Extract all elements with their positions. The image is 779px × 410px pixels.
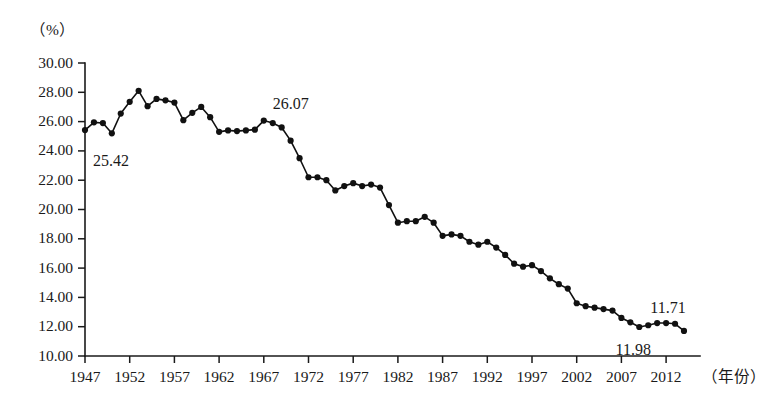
y-axis-tick-label: 28.00 xyxy=(38,83,73,100)
data-point: 1966: 25.45 xyxy=(252,127,258,133)
data-point: 1959: 26.6 xyxy=(189,110,195,116)
data-point: 1970: 24.7 xyxy=(288,138,294,144)
data-point: 1949: 25.9 xyxy=(100,120,106,126)
data-point: 1999: 15.3 xyxy=(547,275,553,281)
data-point: 1984: 19.2 xyxy=(413,218,419,224)
data-point: 1973: 22.2 xyxy=(314,174,320,180)
data-point: 1989: 18.2 xyxy=(457,233,463,239)
data-point: 1967: 26.07 xyxy=(261,117,267,123)
data-annotation: 11.98 xyxy=(616,341,651,358)
line-chart: （%）30.0028.0026.0024.0022.0020.0018.0016… xyxy=(0,0,779,410)
data-point: 1961: 26.3 xyxy=(207,114,213,120)
data-point: 1953: 28.1 xyxy=(136,88,142,94)
y-axis-tick-label: 10.00 xyxy=(38,347,73,364)
y-axis-tick-label: 26.00 xyxy=(38,112,73,129)
data-point: 2000: 14.9 xyxy=(556,281,562,287)
data-point: 1958: 26.1 xyxy=(180,117,186,123)
x-axis-tick-label: 1997 xyxy=(517,368,548,385)
data-point: 1956: 27.45 xyxy=(162,97,168,103)
data-point: 1997: 16.2 xyxy=(529,262,535,268)
data-point: 1963: 25.4 xyxy=(225,127,231,133)
x-axis-name: （年份） xyxy=(702,368,766,385)
data-point: 2005: 13.2 xyxy=(600,306,606,312)
data-annotation: 25.42 xyxy=(93,152,129,169)
x-axis-tick-label: 1972 xyxy=(293,368,324,385)
data-point: 1960: 27 xyxy=(198,104,204,110)
x-axis-tick-label: 2007 xyxy=(606,368,637,385)
x-axis-tick-label: 2012 xyxy=(651,368,682,385)
data-point: 1947: 25.42 xyxy=(82,127,88,133)
x-axis-tick-label: 1952 xyxy=(114,368,145,385)
data-point: 2001: 14.6 xyxy=(565,286,571,292)
y-axis-tick-label: 20.00 xyxy=(38,200,73,217)
data-point: 1952: 27.35 xyxy=(127,99,133,105)
data-point: 2006: 13.1 xyxy=(609,307,615,313)
data-annotation: 26.07 xyxy=(273,95,309,112)
data-point: 2003: 13.4 xyxy=(583,303,589,309)
data-point: 1980: 21.5 xyxy=(377,184,383,190)
x-axis-tick-label: 2002 xyxy=(561,368,592,385)
data-point: 2002: 13.6 xyxy=(574,300,580,306)
data-annotation: 11.71 xyxy=(650,299,685,316)
x-axis-tick-label: 1987 xyxy=(427,368,458,385)
series-line-比重 xyxy=(85,91,684,331)
data-point: 2004: 13.3 xyxy=(591,305,597,311)
data-point: 1975: 21.3 xyxy=(332,187,338,193)
y-axis-tick-label: 30.00 xyxy=(38,54,73,71)
x-axis-tick-label: 1982 xyxy=(382,368,413,385)
data-point: 2012: 12.25 xyxy=(663,320,669,326)
y-axis-tick-label: 24.00 xyxy=(38,141,73,158)
data-point: 1965: 25.4 xyxy=(243,127,249,133)
data-point: 1964: 25.35 xyxy=(234,128,240,134)
data-point: 1988: 18.3 xyxy=(448,231,454,237)
data-point: 2008: 12.3 xyxy=(627,319,633,325)
data-point: 1948: 25.95 xyxy=(91,119,97,125)
y-axis-tick-label: 22.00 xyxy=(38,171,73,188)
data-point: 2009: 11.98 xyxy=(636,324,642,330)
data-point: 1954: 27.05 xyxy=(144,103,150,109)
data-point: 2013: 12.2 xyxy=(672,321,678,327)
data-point: 1985: 19.5 xyxy=(422,214,428,220)
data-point: 1962: 25.3 xyxy=(216,129,222,135)
figure-container: （%）30.0028.0026.0024.0022.0020.0018.0016… xyxy=(0,0,779,410)
data-point: 1974: 22 xyxy=(323,177,329,183)
x-axis-tick-label: 1947 xyxy=(70,368,101,385)
x-axis-tick-label: 1967 xyxy=(248,368,279,385)
data-point: 1976: 21.6 xyxy=(341,183,347,189)
data-point: 1951: 26.55 xyxy=(118,110,124,116)
x-axis-tick-label: 1962 xyxy=(204,368,235,385)
data-point: 1977: 21.8 xyxy=(350,180,356,186)
data-point: 1968: 25.9 xyxy=(270,120,276,126)
data-point: 1955: 27.55 xyxy=(153,96,159,102)
data-point: 1990: 17.8 xyxy=(466,239,472,245)
data-point: 1982: 19.1 xyxy=(395,220,401,226)
data-point: 1957: 27.3 xyxy=(171,99,177,105)
data-point: 1978: 21.6 xyxy=(359,183,365,189)
data-point: 2007: 12.6 xyxy=(618,315,624,321)
data-point: 1983: 19.2 xyxy=(404,218,410,224)
data-point: 2011: 12.25 xyxy=(654,320,660,326)
data-point: 1993: 17.4 xyxy=(493,244,499,250)
x-axis-tick-label: 1992 xyxy=(472,368,503,385)
y-axis-tick-label: 18.00 xyxy=(38,229,73,246)
y-axis-tick-label: 12.00 xyxy=(38,317,73,334)
x-axis-tick-label: 1977 xyxy=(338,368,369,385)
data-point: 1972: 22.2 xyxy=(305,174,311,180)
data-point: 1987: 18.2 xyxy=(440,233,446,239)
data-point: 1971: 23.5 xyxy=(296,155,302,161)
data-point: 1995: 16.3 xyxy=(511,261,517,267)
x-axis-tick-label: 1957 xyxy=(159,368,190,385)
y-axis-tick-label: 16.00 xyxy=(38,259,73,276)
data-point: 1994: 16.9 xyxy=(502,252,508,258)
data-point: 2010: 12.1 xyxy=(645,322,651,328)
data-point: 2014: 11.71 xyxy=(681,328,687,334)
data-point: 1979: 21.7 xyxy=(368,181,374,187)
data-point: 1996: 16.1 xyxy=(520,264,526,270)
y-axis-tick-label: 14.00 xyxy=(38,288,73,305)
data-point: 1991: 17.6 xyxy=(475,242,481,248)
data-point: 1981: 20.3 xyxy=(386,202,392,208)
figure-caption xyxy=(0,393,779,410)
data-point: 1992: 17.8 xyxy=(484,239,490,245)
data-point: 1950: 25.2 xyxy=(109,130,115,136)
data-point: 1969: 25.6 xyxy=(279,124,285,130)
